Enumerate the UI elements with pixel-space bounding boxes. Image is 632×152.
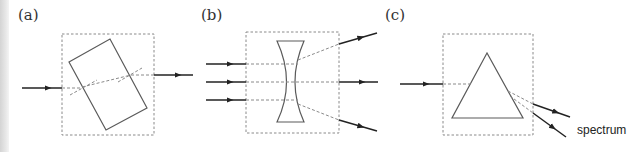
prism bbox=[452, 53, 523, 118]
dispersed-ray-2 bbox=[533, 113, 566, 137]
panel-a: (a) bbox=[18, 6, 193, 135]
glass-block bbox=[69, 39, 147, 130]
diverging-ray-bottom-dashed bbox=[298, 104, 339, 120]
diverging-ray-top-dashed bbox=[298, 44, 339, 60]
panel-b: (b) bbox=[201, 6, 378, 133]
dispersed-ray-1 bbox=[533, 104, 570, 117]
panel-c-label: (c) bbox=[385, 6, 405, 24]
panel-c: (c) spectrum bbox=[385, 6, 626, 137]
panel-b-label: (b) bbox=[201, 6, 222, 24]
diverging-ray-top bbox=[339, 33, 377, 44]
diverging-ray-bottom bbox=[339, 120, 377, 131]
panel-a-label: (a) bbox=[18, 6, 39, 24]
spectrum-label: spectrum bbox=[577, 123, 626, 137]
optics-diagram: (a) (b) (c) bbox=[0, 0, 632, 152]
